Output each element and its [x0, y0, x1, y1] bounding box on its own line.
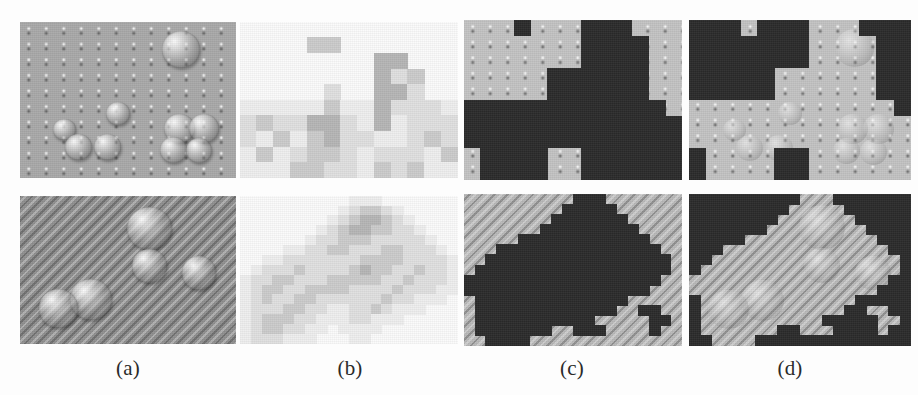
quantized-block-map	[240, 22, 458, 178]
mask-cell	[564, 100, 582, 117]
mask-cell	[531, 164, 549, 180]
quantized-cell	[262, 255, 274, 265]
quantized-cell	[290, 147, 307, 163]
quantized-cell	[251, 275, 263, 285]
mask-cell-inverted	[723, 20, 741, 36]
quantized-cell	[371, 215, 383, 225]
quantized-cell	[441, 100, 458, 116]
mask-cell	[564, 116, 582, 133]
mask-cell	[581, 148, 599, 165]
quantized-cell	[360, 255, 372, 265]
panel-label-c: (c)	[532, 356, 612, 381]
quantized-cell	[272, 255, 284, 265]
quantized-cell	[391, 84, 408, 100]
mask-cell-inverted	[900, 335, 912, 346]
mask-cell-inverted	[844, 204, 856, 215]
mask-cell	[598, 100, 616, 117]
mask-cell-inverted	[855, 214, 867, 225]
quantized-cell	[414, 255, 426, 265]
quantized-cell	[349, 255, 361, 265]
mask-cell	[615, 20, 633, 36]
quantized-cell	[272, 275, 284, 285]
mask-cell	[531, 148, 549, 165]
mask-cell	[598, 36, 616, 53]
quantized-cell	[283, 324, 295, 334]
quantized-cell	[407, 162, 424, 178]
particle-blob	[162, 31, 200, 67]
mask-cell	[615, 164, 633, 180]
mask-cell	[665, 148, 682, 165]
mask-cell	[615, 148, 633, 165]
mask-cell-inverted	[791, 36, 809, 53]
quantized-cell	[357, 115, 374, 131]
quantized-cell	[272, 334, 284, 344]
quantized-cell	[251, 334, 263, 344]
mask-cell	[594, 325, 606, 336]
quantized-cell	[360, 275, 372, 285]
mask-cell	[581, 100, 599, 117]
particle-blob	[182, 256, 217, 289]
mask-cell	[564, 68, 582, 85]
mask-cell	[648, 116, 666, 133]
mask-cell-inverted	[876, 20, 894, 36]
mask-cell-inverted	[791, 164, 809, 180]
mask-cell-inverted	[876, 36, 894, 53]
quantized-cell	[273, 115, 290, 131]
quantized-cell	[403, 304, 415, 314]
mask-cell	[648, 148, 666, 165]
quantized-cell	[283, 304, 295, 314]
quantized-cell	[374, 100, 391, 116]
panel-a-bottom-original-micrograph	[20, 196, 236, 344]
quantized-cell	[371, 235, 383, 245]
mask-cell-inverted	[811, 335, 823, 346]
quantized-cell	[349, 334, 361, 344]
mask-cell-inverted	[700, 335, 712, 346]
mask-cell	[581, 164, 599, 180]
mask-cell	[649, 275, 661, 286]
quantized-cell	[360, 235, 372, 245]
mask-cell-inverted	[888, 244, 900, 255]
mask-cell	[615, 68, 633, 85]
quantized-cell	[424, 147, 441, 163]
quantized-cell	[441, 131, 458, 147]
quantized-cell	[403, 255, 415, 265]
quantized-cell	[349, 324, 361, 334]
quantized-cell	[349, 275, 361, 285]
quantized-cell	[272, 324, 284, 334]
quantized-cell	[360, 304, 372, 314]
mask-cell	[631, 84, 649, 101]
mask-cell	[581, 84, 599, 101]
quantized-cell	[240, 275, 251, 285]
quantized-cell	[381, 235, 393, 245]
mask-cell	[564, 132, 582, 149]
mask-cell-inverted	[833, 335, 845, 346]
mask-cell	[638, 285, 650, 296]
quantized-cell	[391, 53, 408, 69]
mask-cell-inverted	[855, 335, 867, 346]
quantized-cell	[447, 275, 458, 285]
mask-cell-inverted	[689, 68, 706, 85]
mask-cell	[581, 20, 599, 36]
mask-cell-inverted	[894, 68, 911, 85]
mask-cell	[631, 148, 649, 165]
quantized-cell	[324, 131, 341, 147]
mask-cell-inverted	[757, 68, 775, 85]
mask-cell-inverted	[740, 36, 758, 53]
mask-cell-inverted	[700, 254, 712, 265]
mask-cell-inverted	[877, 335, 889, 346]
quantized-cell	[256, 162, 273, 178]
quantized-cell	[305, 235, 317, 245]
quantized-cell	[294, 324, 306, 334]
mask-cell-inverted	[706, 20, 724, 36]
mask-cell	[540, 325, 552, 336]
mask-cell-inverted	[766, 335, 778, 346]
quantized-cell	[307, 162, 324, 178]
mask-cell-inverted	[757, 84, 775, 101]
mask-cell-inverted	[757, 52, 775, 69]
quantized-cell	[391, 115, 408, 131]
quantized-cell	[262, 324, 274, 334]
mask-cell	[615, 36, 633, 53]
quantized-cell	[407, 131, 424, 147]
figure-image-grid: (a)(b)(c)(d)	[0, 0, 918, 395]
quantized-cell	[340, 131, 357, 147]
